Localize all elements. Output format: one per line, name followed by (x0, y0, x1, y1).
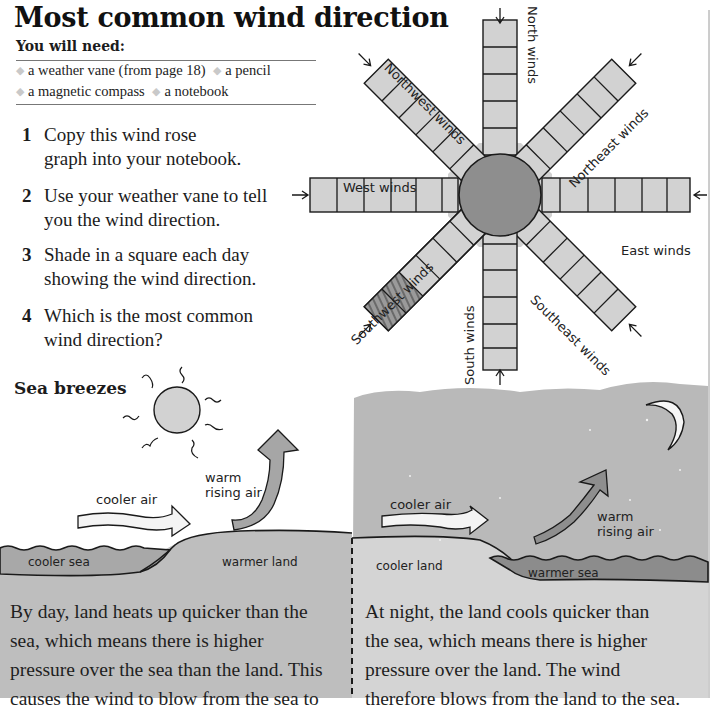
night-explanation: At night, the land cools quicker than th… (365, 597, 710, 709)
rose-arm-south (483, 222, 517, 370)
text-line: causes the wind to blow from the sea to (10, 684, 350, 709)
text-line: pressure over the land. The wind (365, 655, 710, 684)
rose-arm-east (542, 178, 690, 212)
wind-rose (292, 8, 707, 385)
rose-center (459, 154, 541, 236)
label-warmer-land: warmer land (222, 555, 298, 569)
text-line: At night, the land cools quicker than (365, 597, 710, 626)
rose-arm-north (483, 20, 517, 168)
label-cooler-sea: cooler sea (28, 555, 90, 569)
text-line: By day, land heats up quicker than the (10, 597, 350, 626)
text-line: the sea, which means there is higher (365, 626, 710, 655)
label-cooler-land: cooler land (376, 559, 443, 573)
label-warm-rising-air-day: warm rising air (205, 470, 262, 500)
label-east-winds: East winds (621, 243, 691, 258)
label-line: rising air (597, 524, 654, 539)
cooler-air-arrow-day (78, 506, 190, 536)
text-line: pressure over the sea than the land. Thi… (10, 655, 350, 684)
label-north-winds: North winds (525, 6, 540, 84)
text-line: sea, which means there is higher (10, 626, 350, 655)
label-west-winds: West winds (343, 180, 417, 195)
label-warmer-sea: warmer sea (528, 566, 599, 580)
sun-icon (123, 367, 223, 458)
label-warm-rising-air-night: warm rising air (597, 509, 654, 539)
label-south-winds: South winds (462, 306, 477, 385)
label-cooler-air-day: cooler air (96, 492, 157, 507)
label-line: rising air (205, 485, 262, 500)
label-line: warm (205, 470, 262, 485)
day-explanation: By day, land heats up quicker than the s… (10, 597, 350, 709)
text-line: therefore blows from the land to the sea… (365, 684, 710, 709)
label-cooler-air-night: cooler air (390, 497, 451, 512)
label-line: warm (597, 509, 654, 524)
